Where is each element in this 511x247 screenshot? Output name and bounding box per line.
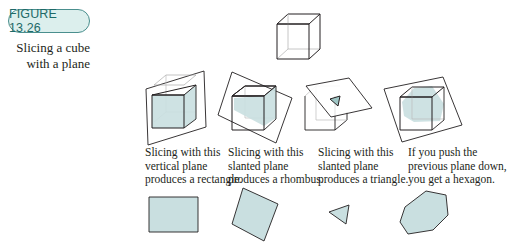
panel-rhombus-cube xyxy=(218,72,292,143)
cross-section-triangle xyxy=(329,205,349,224)
panel-description-rhombus: Slicing with this slanted plane produces… xyxy=(228,146,324,187)
panel-description-triangle: Slicing with this slanted plane produces… xyxy=(318,146,408,187)
description-line: you get a hexagon. xyxy=(408,173,507,187)
panel-hexagon-cube xyxy=(384,77,462,142)
panel-description-hexagon: If you push the previous plane down, you… xyxy=(408,146,507,187)
description-line: slanted plane xyxy=(318,160,408,174)
cross-section-rectangle xyxy=(149,197,198,232)
panel-triangle-cube xyxy=(305,78,372,130)
description-line: If you push the xyxy=(408,146,507,160)
plain-cube xyxy=(277,14,320,59)
description-line: slanted plane xyxy=(228,160,324,174)
description-line: Slicing with this xyxy=(318,146,408,160)
cross-section-rhombus xyxy=(232,188,278,241)
panel-rectangle-cube xyxy=(146,71,206,145)
cross-section-hexagon xyxy=(400,191,448,234)
cube-slicing-illustration xyxy=(0,0,511,247)
description-line: previous plane down, xyxy=(408,160,507,174)
description-line: produces a rhombus. xyxy=(228,173,324,187)
description-line: Slicing with this xyxy=(228,146,324,160)
description-line: produces a triangle. xyxy=(318,173,408,187)
cross-sections xyxy=(149,188,448,241)
